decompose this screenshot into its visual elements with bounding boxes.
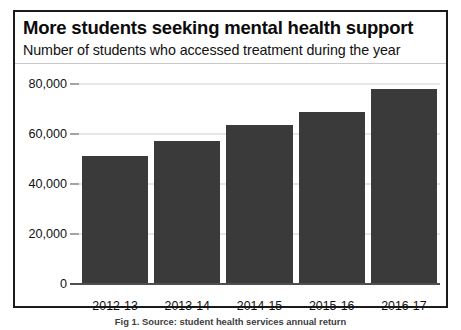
bar-group-1[interactable]: 2013-14 — [151, 141, 223, 283]
ytick-label-20000: 20,000 — [15, 227, 67, 241]
ytick-dash-20000 — [70, 234, 79, 235]
chart-header: More students seeking mental health supp… — [15, 12, 446, 64]
chart-subtitle: Number of students who accessed treatmen… — [23, 40, 438, 60]
bar-label-4: 2016-17 — [368, 299, 440, 313]
plot-region: 80,000 60,000 40,000 20,000 0 2012-13 20… — [15, 64, 446, 306]
bar-label-3: 2015-16 — [296, 299, 368, 313]
bars-layer: 2012-13 2013-14 2014-15 2015-16 2016-17 — [79, 64, 440, 306]
ytick-dash-60000 — [70, 134, 79, 135]
bar-group-0[interactable]: 2012-13 — [79, 156, 151, 283]
bar-label-1: 2013-14 — [151, 299, 223, 313]
ytick-dash-40000 — [70, 184, 79, 185]
bar-group-3[interactable]: 2015-16 — [296, 112, 368, 283]
bar-2012-13[interactable] — [82, 156, 148, 283]
bar-label-0: 2012-13 — [79, 299, 151, 313]
ytick-label-60000: 60,000 — [15, 127, 67, 141]
bar-2015-16[interactable] — [299, 112, 365, 283]
bar-2013-14[interactable] — [154, 141, 220, 283]
bar-label-2: 2014-15 — [223, 299, 295, 313]
chart-title: More students seeking mental health supp… — [23, 15, 438, 40]
bar-group-4[interactable]: 2016-17 — [368, 89, 440, 283]
bar-group-2[interactable]: 2014-15 — [223, 125, 295, 283]
figure-caption: Fig 1. Source: student health services a… — [0, 316, 461, 330]
ytick-label-80000: 80,000 — [15, 77, 67, 91]
bar-2016-17[interactable] — [371, 89, 437, 283]
ytick-label-40000: 40,000 — [15, 177, 67, 191]
figure-frame: More students seeking mental health supp… — [13, 10, 448, 308]
ytick-label-0: 0 — [15, 277, 67, 291]
bar-2014-15[interactable] — [226, 125, 292, 283]
ytick-dash-80000 — [70, 84, 79, 85]
